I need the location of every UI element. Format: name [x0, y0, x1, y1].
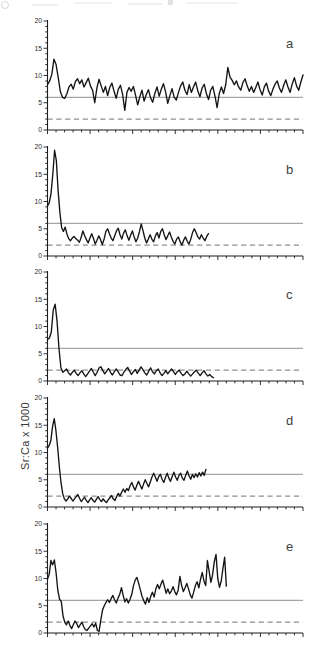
y-tick-label: 20: [34, 394, 42, 401]
y-tick-label: 20: [34, 268, 42, 275]
y-tick-label: 20: [34, 520, 42, 527]
y-tick-label: 10: [34, 575, 42, 582]
y-tick-label: 20: [34, 143, 42, 150]
y-tick-label: 15: [34, 296, 42, 303]
page-crop-artifact: [74, 2, 112, 4]
data-series-line: [48, 150, 209, 245]
data-series-line: [48, 555, 227, 632]
page-crop-artifact: [186, 2, 238, 4]
panel-letter: b: [286, 162, 293, 177]
chart-panel-d: 05101520d: [0, 394, 316, 519]
y-tick-label: 5: [38, 350, 42, 357]
y-tick-label: 10: [34, 323, 42, 330]
page-crop-artifact: [32, 4, 58, 6]
y-tick-label: 10: [34, 72, 42, 79]
chart-panel-b: 05101520b: [0, 143, 316, 268]
y-tick-label: 15: [34, 45, 42, 52]
chart-svg-d: 05101520d: [0, 394, 316, 519]
chart-panel-a: 05101520a: [0, 17, 316, 142]
chart-panel-e: 05101520e: [0, 520, 316, 645]
y-tick-label: 15: [34, 422, 42, 429]
y-tick-label: 5: [38, 602, 42, 609]
y-tick-label: 20: [34, 17, 42, 24]
panel-letter: e: [286, 539, 293, 554]
y-tick-label: 5: [38, 476, 42, 483]
page-crop-artifact: [168, 0, 173, 5]
y-tick-label: 5: [38, 225, 42, 232]
y-tick-label: 15: [34, 171, 42, 178]
y-tick-label: 0: [38, 503, 42, 510]
data-series-line: [48, 304, 214, 378]
y-tick-label: 0: [38, 126, 42, 133]
y-tick-label: 10: [34, 198, 42, 205]
y-tick-label: 0: [38, 629, 42, 636]
y-tick-label: 0: [38, 252, 42, 259]
y-tick-label: 0: [38, 377, 42, 384]
chart-svg-b: 05101520b: [0, 143, 316, 268]
data-series-line: [48, 59, 304, 110]
panel-letter: c: [286, 287, 293, 302]
panel-letter: a: [286, 36, 294, 51]
y-tick-label: 10: [34, 449, 42, 456]
chart-svg-e: 05101520e: [0, 520, 316, 645]
y-tick-label: 5: [38, 99, 42, 106]
figure-sr-ca-profiles: Sr:Ca x 1000 05101520a 05101520b 0510152…: [0, 0, 316, 660]
page-crop-artifact: [128, 3, 162, 5]
y-tick-label: 15: [34, 548, 42, 555]
panel-letter: d: [286, 413, 293, 428]
chart-svg-a: 05101520a: [0, 17, 316, 142]
page-crop-artifact: [1, 1, 9, 9]
data-series-line: [48, 419, 206, 503]
chart-panel-c: 05101520c: [0, 268, 316, 393]
chart-svg-c: 05101520c: [0, 268, 316, 393]
